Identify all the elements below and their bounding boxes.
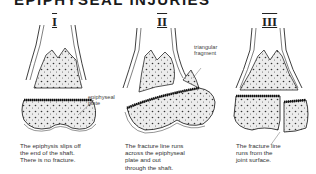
panel-3-caption: The fracture line runs from the joint su… — [236, 142, 281, 164]
panel-2-caption: The fracture line runs across the epiphy… — [125, 142, 185, 171]
panel-1-label: epiphyseal plate — [88, 94, 115, 107]
panel-1-diagram — [10, 20, 110, 135]
panel-2-label: triangular fragment — [194, 44, 217, 57]
page-title: EPIPHYSEAL INJURIES — [14, 0, 211, 8]
panel-2-diagram — [115, 20, 225, 135]
panel-3-diagram — [222, 20, 316, 145]
panel-1-caption: The epiphysis slips off the end of the s… — [20, 142, 81, 164]
